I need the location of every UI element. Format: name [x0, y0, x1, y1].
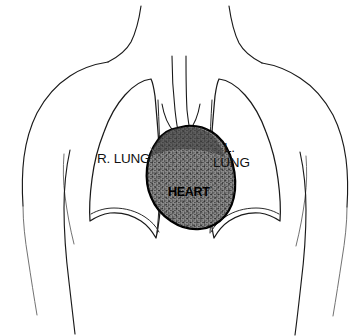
chest-anatomy-figure: R. LUNG L. LUNG HEART [0, 0, 364, 336]
label-right-lung: R. LUNG [97, 151, 150, 166]
label-left-lung-line1: L. [224, 140, 235, 155]
label-left-lung-line2: LUNG [213, 155, 250, 170]
label-layer: R. LUNG L. LUNG HEART [0, 0, 364, 336]
label-heart: HEART [168, 185, 210, 199]
